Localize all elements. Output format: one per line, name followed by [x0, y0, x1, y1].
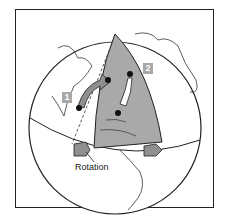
dot-point: [115, 110, 121, 116]
dot-point: [105, 77, 111, 83]
rotation-label: Rotation: [75, 162, 109, 172]
dot-point: [76, 105, 82, 111]
globe-diagram: [0, 0, 227, 218]
dot-point: [127, 71, 133, 77]
marker-1: 1: [62, 92, 72, 103]
marker-2: 2: [143, 63, 153, 74]
